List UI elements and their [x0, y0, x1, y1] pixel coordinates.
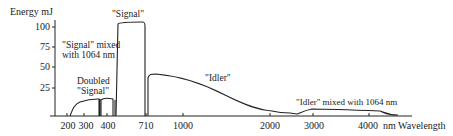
- xtick-2000: 2000: [260, 120, 280, 131]
- annotation-idler: "Idler": [205, 73, 231, 83]
- xtick-4000: 4000: [358, 120, 378, 131]
- annotation-signal-mixed-1: "Signal" mixed: [62, 40, 120, 50]
- xtick-400: 400: [101, 120, 116, 131]
- annotation-signal-mixed-2: with 1064 nm: [62, 50, 115, 60]
- xtick-300: 300: [79, 120, 94, 131]
- y-axis-label: Energy mJ: [10, 6, 53, 17]
- xtick-3000: 3000: [304, 120, 324, 131]
- curve-doubled-signal: [101, 98, 115, 116]
- curve-idler-mixed: [290, 109, 398, 115]
- annotation-signal: "Signal": [112, 9, 144, 19]
- ytick-75: 75: [40, 41, 50, 52]
- ytick-100: 100: [35, 21, 50, 32]
- ytick-25: 25: [40, 82, 50, 93]
- annotation-idler-mixed: "Idler" mixed with 1064 nm: [296, 97, 397, 107]
- x-axis-label: nm Wavelength: [383, 120, 446, 131]
- xtick-1000: 1000: [173, 120, 193, 131]
- curve-signal-mixed: [70, 99, 100, 116]
- annotation-doubled-1: Doubled: [77, 76, 110, 86]
- xtick-710: 710: [139, 120, 154, 131]
- xtick-200: 200: [61, 120, 76, 131]
- curve-signal: [116, 22, 145, 116]
- ytick-50: 50: [40, 61, 50, 72]
- annotation-doubled-2: "Signal": [77, 86, 109, 96]
- chart: 100 75 50 25 200 300 400 710 1000 2000 3…: [0, 0, 453, 136]
